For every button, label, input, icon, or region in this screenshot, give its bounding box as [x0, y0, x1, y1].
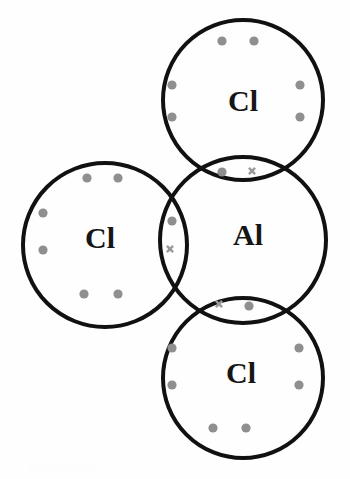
atom-label-al-center: Al [233, 218, 263, 251]
electron-dot-cl-left-6 [82, 173, 91, 182]
electron-dot-bond-al-cl-left-0 [167, 216, 176, 225]
electron-dot-cl-bottom-12 [167, 343, 176, 352]
electron-dot-cl-left-7 [113, 173, 122, 182]
electron-dot-cl-top-0 [217, 36, 226, 45]
electron-dot-cl-top-3 [167, 112, 176, 121]
electron-dot-cl-bottom-17 [241, 423, 250, 432]
electron-dot-cl-top-5 [295, 112, 304, 121]
electron-dot-cl-top-4 [295, 80, 304, 89]
electron-dot-cl-bottom-16 [208, 423, 217, 432]
electron-dot-cl-left-8 [38, 208, 47, 217]
dot-and-cross-diagram: Dot-and-cross diagram of aluminium chlor… [0, 0, 350, 479]
electron-dot-cl-left-10 [79, 289, 88, 298]
electron-dot-bond-al-cl-bottom-1 [244, 301, 253, 310]
electron-dot-bond-al-cl-top-0 [217, 167, 226, 176]
atom-label-cl-left: Cl [85, 221, 115, 254]
electron-dot-cl-bottom-14 [294, 343, 303, 352]
electron-dot-cl-top-2 [167, 80, 176, 89]
electron-dot-cl-top-1 [249, 36, 258, 45]
electron-dot-cl-bottom-13 [167, 380, 176, 389]
electron-dot-cl-left-9 [38, 245, 47, 254]
electron-dot-cl-left-11 [113, 289, 122, 298]
electron-dot-cl-bottom-15 [294, 380, 303, 389]
diagram-background [0, 0, 350, 479]
atom-label-cl-bottom: Cl [226, 356, 256, 389]
atom-label-cl-top: Cl [228, 84, 258, 117]
alcl3-bonding-diagram: Dot-and-cross diagram of aluminium chlor… [0, 0, 350, 479]
